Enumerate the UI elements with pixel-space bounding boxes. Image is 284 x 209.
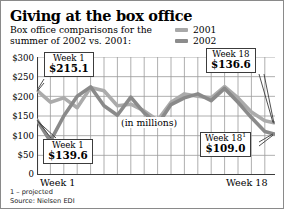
y-tick-50: $50 bbox=[1, 150, 34, 160]
callout-week18-2002: Week 181 $109.0 bbox=[200, 132, 251, 157]
footnote-projected: 1 – projected bbox=[10, 188, 53, 196]
x-tick-week1: Week 1 bbox=[40, 177, 75, 188]
callout-week1-2002: Week 1 $139.6 bbox=[43, 139, 93, 164]
x-tick-week18: Week 18 bbox=[226, 177, 268, 188]
units-annotation: (in millions) bbox=[119, 117, 179, 128]
callout-value: $139.6 bbox=[48, 150, 88, 161]
callout-footnote-marker: 1 bbox=[242, 131, 246, 138]
callout-value: $136.6 bbox=[211, 59, 251, 70]
y-tick-200: $200 bbox=[1, 92, 34, 102]
callout-value: $109.0 bbox=[205, 143, 246, 154]
y-tick-0: 0 bbox=[1, 169, 34, 179]
y-tick-300: $300 bbox=[1, 53, 34, 63]
y-tick-100: $100 bbox=[1, 131, 34, 141]
callout-week18-2001: Week 18 $136.6 bbox=[206, 48, 256, 73]
callout-week1-2001: Week 1 $215.1 bbox=[44, 52, 94, 77]
chart-figure: Giving at the box office Box office comp… bbox=[0, 0, 284, 209]
source-label: Source: Nielsen EDI bbox=[10, 197, 75, 205]
y-tick-150: $150 bbox=[1, 111, 34, 121]
y-tick-250: $250 bbox=[1, 72, 34, 82]
callout-value: $215.1 bbox=[49, 63, 89, 74]
